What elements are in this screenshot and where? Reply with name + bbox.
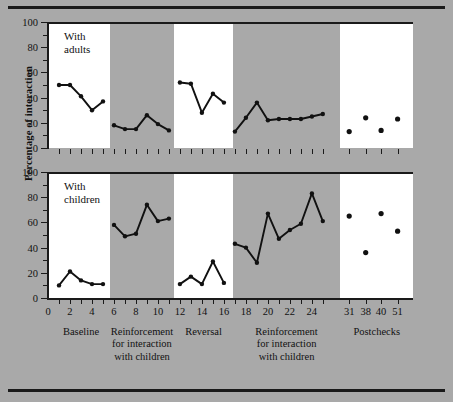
x-tick (136, 299, 137, 304)
data-point (189, 274, 193, 278)
x-tick (59, 299, 60, 304)
y-tick (41, 222, 47, 223)
x-tick (136, 149, 137, 154)
phase-label-1: Reinforcementfor interactionwith childre… (111, 326, 173, 363)
x-tick-label: 4 (89, 306, 94, 317)
x-tick (191, 299, 192, 304)
x-tick (257, 149, 258, 154)
x-tick (158, 299, 159, 304)
series-line-reinforcement-1 (114, 205, 169, 237)
data-point (134, 127, 138, 131)
data-point (266, 211, 270, 215)
data-point (347, 214, 352, 219)
x-tick (290, 299, 291, 304)
x-tick (191, 149, 192, 154)
y-tick (43, 185, 47, 186)
x-tick-postcheck (366, 299, 367, 304)
x-tick (169, 149, 170, 154)
y-tick (43, 135, 47, 136)
y-tick (41, 197, 47, 198)
y-tick-label: 0 (12, 293, 38, 304)
data-point (178, 282, 182, 286)
x-tick (323, 149, 324, 154)
x-tick (301, 149, 302, 154)
x-tick (290, 149, 291, 154)
data-point (288, 117, 292, 121)
series-line-reinforcement-1 (114, 115, 169, 130)
x-tick (103, 149, 104, 154)
x-tick (246, 299, 247, 304)
data-point (379, 211, 384, 216)
y-tick-label: 60 (12, 67, 38, 78)
figure-chart: Percentage of interaction 020406080100Wi… (0, 0, 453, 402)
x-tick (235, 149, 236, 154)
x-tick (180, 149, 181, 154)
x-tick (147, 149, 148, 154)
data-point (145, 113, 149, 117)
data-point (299, 222, 303, 226)
x-tick-postcheck (349, 149, 350, 154)
data-point (112, 123, 116, 127)
y-tick (43, 85, 47, 86)
y-axis-spine (47, 22, 49, 149)
data-point (211, 259, 215, 263)
x-tick-label: 12 (175, 306, 186, 317)
data-point (200, 111, 204, 115)
data-point (255, 261, 259, 265)
y-tick (43, 285, 47, 286)
x-tick-label: 0 (45, 306, 50, 317)
phase-label-0: Baseline (63, 326, 99, 338)
data-point (321, 112, 325, 116)
x-axis-spine (47, 298, 413, 300)
x-tick (169, 299, 170, 304)
x-tick (81, 299, 82, 304)
x-tick (213, 149, 214, 154)
y-tick (41, 172, 47, 173)
y-tick-label: 20 (12, 117, 38, 128)
data-point (189, 82, 193, 86)
x-tick-label: 20 (263, 306, 274, 317)
data-point (57, 83, 61, 87)
y-tick (43, 210, 47, 211)
x-tick-label: 6 (111, 306, 116, 317)
y-tick (41, 248, 47, 249)
data-point (167, 128, 171, 132)
data-point (379, 128, 384, 133)
data-point (299, 117, 303, 121)
data-layer (48, 22, 413, 154)
y-tick (41, 98, 47, 99)
data-point (255, 100, 259, 104)
data-point (79, 278, 83, 282)
data-point (123, 127, 127, 131)
data-layer (48, 172, 413, 304)
x-tick-postcheck (381, 299, 382, 304)
data-point (123, 234, 127, 238)
x-tick (70, 299, 71, 304)
panel-title-with-adults: Withadults (64, 30, 90, 55)
series-line-reinforcement-2 (235, 193, 323, 262)
x-tick (213, 299, 214, 304)
y-tick-label: 80 (12, 192, 38, 203)
y-tick-label: 40 (12, 242, 38, 253)
y-tick-label: 100 (12, 167, 38, 178)
x-tick (59, 149, 60, 154)
data-point (90, 282, 94, 286)
y-tick (41, 148, 47, 149)
x-tick-postcheck (398, 299, 399, 304)
y-tick (43, 110, 47, 111)
data-point (68, 269, 72, 273)
x-tick (268, 149, 269, 154)
data-point (68, 83, 72, 87)
data-point (222, 281, 226, 285)
x-tick (114, 299, 115, 304)
data-point (156, 219, 160, 223)
x-tick (279, 299, 280, 304)
x-tick (202, 149, 203, 154)
x-tick (147, 299, 148, 304)
x-tick (257, 299, 258, 304)
x-tick (92, 149, 93, 154)
y-axis-spine (47, 172, 49, 299)
y-tick-label: 0 (12, 143, 38, 154)
x-tick (125, 299, 126, 304)
y-tick-label: 20 (12, 267, 38, 278)
